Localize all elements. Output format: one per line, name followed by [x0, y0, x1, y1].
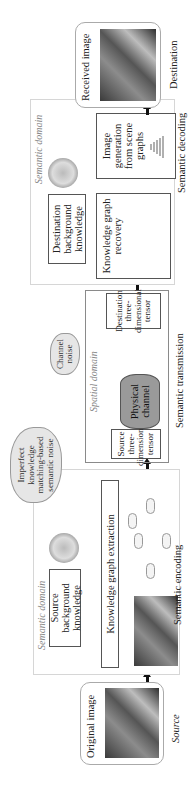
original-image-title: Original image: [85, 695, 96, 758]
destination-tensor: Destination three-dimensional tensor: [106, 293, 161, 329]
source-label: Source: [170, 714, 181, 743]
spatial-domain: Spatial domain Source three-dimensional …: [85, 290, 169, 463]
semantic-decoding-label: Semantic decoding: [176, 113, 187, 193]
original-image-panel: Original image: [80, 682, 164, 765]
decoding-semantic-domain: Semantic domain Destination background k…: [30, 99, 175, 285]
spatial-domain-label: Spatial domain: [88, 351, 99, 412]
destination-background-knowledge: Destination background knowledge: [48, 194, 86, 264]
source-knowledge-icon: [49, 533, 79, 563]
extracted-knowledge-graph: [126, 489, 176, 589]
semantic-transmission-label: Semantic transmission: [174, 333, 185, 428]
received-image-panel: Received image: [75, 22, 161, 108]
knowledge-graph-recovery: Knowledge graph recovery: [96, 193, 171, 279]
semantic-encoding-label: Semantic encoding: [172, 545, 183, 625]
channel-noise-cloud: Channel noise: [50, 333, 80, 375]
original-image: [105, 688, 159, 758]
physical-channel: Physical channel: [120, 374, 160, 429]
arrow-source-to-encoding: [146, 676, 149, 682]
source-tensor: Source three-dimensional tensor: [111, 429, 161, 459]
arrow-decoding-to-destination: [146, 108, 149, 115]
destination-knowledge-icon: [48, 158, 78, 188]
semantic-communication-diagram: Original image Source Semantic domain So…: [0, 0, 195, 793]
knowledge-graph-extraction: Knowledge graph extraction: [101, 480, 119, 668]
decoding-domain-label: Semantic domain: [33, 115, 44, 184]
received-image-title: Received image: [80, 34, 91, 101]
semantic-noise-cloud: Imperfect knowledge matching-based seman…: [10, 427, 62, 503]
received-image: [100, 29, 156, 101]
encoding-semantic-domain: Semantic domain Source background knowle…: [33, 469, 180, 675]
scene-graph-icon: [149, 135, 165, 159]
encoding-domain-label: Semantic domain: [36, 581, 47, 650]
source-background-knowledge: Source background knowledge: [49, 569, 81, 647]
destination-label: Destination: [168, 41, 179, 89]
